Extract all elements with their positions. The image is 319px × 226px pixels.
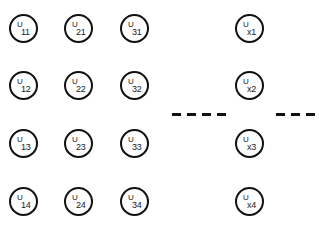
node-label: Ux3 [237, 131, 262, 156]
node-ux2: Ux2 [235, 71, 264, 100]
node-u13: U13 [9, 129, 38, 158]
node-ux1: Ux1 [235, 14, 264, 43]
node-u24: U24 [64, 187, 93, 216]
node-u11: U11 [9, 14, 38, 43]
node-label: U34 [122, 189, 147, 214]
node-ux4: Ux4 [235, 187, 264, 216]
node-label: U11 [11, 16, 36, 41]
node-label-subscript: x1 [247, 27, 256, 37]
node-label-subscript: 34 [132, 200, 141, 210]
node-label-subscript: 32 [132, 84, 141, 94]
node-label: Ux1 [237, 16, 262, 41]
node-label: U14 [11, 189, 36, 214]
node-label-subscript: x4 [247, 200, 256, 210]
node-label-subscript: 33 [132, 142, 141, 152]
node-label-subscript: 14 [21, 200, 30, 210]
node-label-subscript: 31 [132, 27, 141, 37]
node-u14: U14 [9, 187, 38, 216]
node-label: U22 [66, 73, 91, 98]
dash-mark [187, 113, 196, 116]
node-u34: U34 [120, 187, 149, 216]
node-label-subscript: x2 [247, 84, 256, 94]
node-label-subscript: 12 [21, 84, 30, 94]
ellipsis-dashes [276, 113, 315, 116]
node-label: U31 [122, 16, 147, 41]
node-u21: U21 [64, 14, 93, 43]
dash-mark [306, 113, 315, 116]
dash-mark [291, 113, 300, 116]
dash-mark [217, 113, 226, 116]
node-u31: U31 [120, 14, 149, 43]
node-label-subscript: 23 [76, 142, 85, 152]
node-u32: U32 [120, 71, 149, 100]
dash-mark [172, 113, 181, 116]
node-label-subscript: 21 [76, 27, 85, 37]
node-label: Ux2 [237, 73, 262, 98]
node-label-subscript: 11 [21, 27, 30, 37]
node-label: U12 [11, 73, 36, 98]
node-u12: U12 [9, 71, 38, 100]
node-label-subscript: x3 [247, 142, 256, 152]
node-u22: U22 [64, 71, 93, 100]
node-ux3: Ux3 [235, 129, 264, 158]
node-label: U32 [122, 73, 147, 98]
node-u33: U33 [120, 129, 149, 158]
node-label: U21 [66, 16, 91, 41]
dash-mark [202, 113, 211, 116]
ellipsis-dashes [172, 113, 226, 116]
node-label: U13 [11, 131, 36, 156]
node-label-subscript: 13 [21, 142, 30, 152]
node-label: U23 [66, 131, 91, 156]
dash-mark [276, 113, 285, 116]
node-label: U24 [66, 189, 91, 214]
node-label: U33 [122, 131, 147, 156]
node-u23: U23 [64, 129, 93, 158]
node-label: Ux4 [237, 189, 262, 214]
node-label-subscript: 22 [76, 84, 85, 94]
node-label-subscript: 24 [76, 200, 85, 210]
